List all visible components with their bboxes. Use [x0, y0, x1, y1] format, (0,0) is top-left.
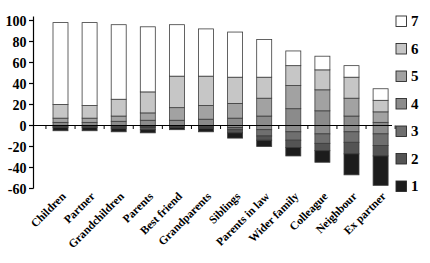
legend-label: 1	[411, 178, 419, 194]
bar-segment-4	[344, 126, 359, 132]
bar-segment-6	[82, 106, 97, 119]
legend-swatch-2	[396, 154, 407, 165]
bar-segment-4	[373, 126, 388, 134]
y-axis-tick-label: 100	[6, 14, 27, 29]
bar-segment-1	[315, 151, 330, 163]
bar-segment-6	[373, 100, 388, 112]
bar-segment-7	[199, 29, 214, 76]
bar-segment-5	[257, 98, 272, 116]
bar-segment-3	[257, 130, 272, 136]
bar-segment-6	[257, 77, 272, 98]
bar-segment-7	[315, 56, 330, 70]
bar-segment-1	[111, 129, 126, 132]
bar-segment-1	[140, 130, 155, 133]
chart-canvas: ChildrenPartnerGrandchildrenParentsBest …	[0, 0, 430, 263]
bar-segment-6	[53, 105, 68, 119]
bar-segment-1	[169, 128, 184, 130]
bar-segment-4	[286, 109, 301, 126]
bar-segment-7	[140, 27, 155, 92]
bar-segment-7	[373, 89, 388, 101]
bar-segment-4	[315, 111, 330, 126]
bar-segment-4	[228, 118, 243, 125]
bar-segment-5	[169, 108, 184, 121]
bar-segment-5	[315, 90, 330, 111]
bar-segment-7	[169, 25, 184, 76]
legend-swatch-4	[396, 99, 407, 110]
bar-segment-3	[286, 132, 301, 140]
bar-segment-4	[111, 121, 126, 125]
legend-label: 4	[411, 96, 419, 112]
legend-label: 5	[411, 68, 419, 84]
bar-segment-7	[257, 39, 272, 77]
bar-segment-5	[82, 118, 97, 122]
bar-segment-5	[111, 116, 126, 121]
bar-segment-3	[315, 134, 330, 143]
y-axis-tick-label: -40	[8, 161, 27, 176]
bar-segment-7	[53, 23, 68, 105]
bar-segment-7	[111, 25, 126, 100]
legend-swatch-6	[396, 44, 407, 55]
bar-segment-6	[228, 77, 243, 103]
bar-segment-1	[199, 129, 214, 132]
bar-segment-6	[286, 66, 301, 86]
legend-label: 6	[411, 41, 419, 57]
bar-segment-6	[344, 77, 359, 98]
bar-segment-7	[344, 66, 359, 78]
bar-segment-1	[257, 140, 272, 146]
x-axis-category-label: Grandparents	[156, 190, 215, 249]
bar-segment-5	[228, 103, 243, 118]
y-axis-tick-label: 0	[20, 119, 27, 134]
chart: ChildrenPartnerGrandchildrenParentsBest …	[0, 0, 430, 263]
bar-segment-6	[199, 76, 214, 105]
bar-segment-6	[315, 70, 330, 90]
bar-segment-1	[228, 133, 243, 138]
bar-segment-4	[140, 120, 155, 125]
bar-segment-4	[257, 116, 272, 125]
bar-segment-5	[199, 106, 214, 120]
bar-segment-6	[111, 99, 126, 116]
y-axis-tick-label: 20	[13, 98, 27, 113]
bar-segment-1	[286, 148, 301, 156]
bar-segment-2	[315, 143, 330, 150]
bar-segment-7	[286, 51, 301, 66]
bar-segment-3	[373, 134, 388, 146]
bar-segment-7	[228, 32, 243, 77]
y-axis-tick-label: -20	[8, 140, 27, 155]
legend-label: 2	[411, 151, 419, 167]
bar-segment-5	[373, 112, 388, 123]
bar-segment-4	[169, 120, 184, 125]
legend-swatch-3	[396, 126, 407, 137]
bar-segment-1	[344, 154, 359, 175]
bar-segment-2	[286, 140, 301, 147]
bar-segment-5	[286, 86, 301, 109]
bar-segment-6	[169, 76, 184, 108]
bar-segment-4	[257, 126, 272, 130]
bar-segment-4	[199, 119, 214, 125]
bar-segment-1	[373, 156, 388, 185]
bar-segment-4	[315, 126, 330, 134]
bar-segment-2	[257, 136, 272, 140]
y-axis-tick-label: -60	[8, 182, 27, 197]
bar-segment-2	[228, 130, 243, 133]
legend-label: 3	[411, 123, 419, 139]
y-axis-tick-label: 40	[13, 77, 27, 92]
x-axis-category-label: Children	[28, 190, 68, 230]
legend-label: 7	[411, 13, 419, 29]
bar-segment-2	[373, 145, 388, 156]
bar-segment-7	[82, 23, 97, 106]
bar-segment-1	[82, 128, 97, 131]
bar-segment-3	[344, 132, 359, 143]
y-axis-tick-label: 80	[13, 35, 27, 50]
bar-segment-5	[140, 113, 155, 120]
bar-segment-1	[53, 128, 68, 131]
legend-swatch-7	[396, 16, 407, 27]
bar-segment-6	[140, 92, 155, 113]
legend-swatch-1	[396, 181, 407, 192]
bar-segment-2	[344, 142, 359, 154]
bar-segment-5	[344, 98, 359, 116]
bar-segment-4	[286, 126, 301, 132]
bar-segment-5	[53, 118, 68, 122]
legend-swatch-5	[396, 71, 407, 82]
y-axis-tick-label: 60	[13, 56, 27, 71]
bar-segment-4	[344, 116, 359, 125]
